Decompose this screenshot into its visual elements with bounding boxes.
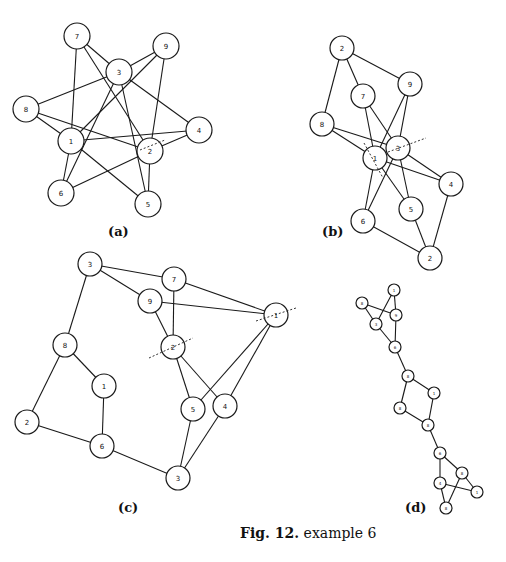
graph-node: 7 xyxy=(162,267,186,291)
caption-prefix: Fig. 12. xyxy=(240,525,299,541)
svg-text:8: 8 xyxy=(63,342,67,350)
graph-node: 5 xyxy=(135,191,161,217)
svg-text:9: 9 xyxy=(395,313,398,318)
graph-node: 1 xyxy=(388,284,400,296)
graph-node: 6 xyxy=(48,180,74,206)
graph-node: 4 xyxy=(439,172,463,196)
graph-node: 3 xyxy=(370,318,382,330)
graph-panel-a: 793841265 xyxy=(13,23,212,217)
svg-text:3: 3 xyxy=(88,261,92,269)
graph-edge xyxy=(77,36,150,151)
graph-node: 3 xyxy=(106,59,132,85)
graph-node: 1 xyxy=(92,374,116,398)
svg-text:4: 4 xyxy=(439,481,442,486)
svg-text:1: 1 xyxy=(393,288,396,293)
graph-node: 8 xyxy=(456,467,468,479)
svg-text:2: 2 xyxy=(148,148,152,156)
svg-text:9: 9 xyxy=(408,81,412,89)
graph-node: 8 xyxy=(394,402,406,414)
graph-node: 6 xyxy=(434,447,446,459)
caption-text: example 6 xyxy=(299,525,376,541)
svg-text:9: 9 xyxy=(148,298,152,306)
graph-edge xyxy=(65,264,90,345)
graph-node: 3 xyxy=(78,252,102,276)
svg-text:8: 8 xyxy=(24,106,28,114)
svg-text:7: 7 xyxy=(75,33,79,41)
graph-panel-c: 379182154263 xyxy=(15,252,296,490)
svg-text:4: 4 xyxy=(223,403,228,411)
graph-node: 2 xyxy=(330,36,354,60)
svg-text:6: 6 xyxy=(439,451,442,456)
svg-text:3: 3 xyxy=(117,69,121,77)
graph-node: 8 xyxy=(422,419,434,431)
graph-edge xyxy=(193,315,276,409)
graph-node: 7 xyxy=(64,23,90,49)
panel-label-b: (b) xyxy=(322,224,343,239)
graph-node: 8 xyxy=(440,502,452,514)
graph-edge xyxy=(61,151,150,193)
svg-text:6: 6 xyxy=(59,190,64,198)
svg-text:7: 7 xyxy=(361,93,365,101)
graph-node: 8 xyxy=(13,96,39,122)
svg-text:9: 9 xyxy=(164,43,168,51)
graph-node: 2 xyxy=(418,246,442,270)
svg-text:8: 8 xyxy=(399,406,402,411)
svg-text:4: 4 xyxy=(449,181,454,189)
graph-node: 6 xyxy=(351,209,375,233)
graph-edge xyxy=(150,46,166,151)
svg-text:5: 5 xyxy=(146,201,150,209)
graph-node: 9 xyxy=(153,33,179,59)
graph-node: 1 xyxy=(363,146,387,170)
svg-text:2: 2 xyxy=(340,45,344,53)
graph-edge xyxy=(225,315,276,406)
graph-node: 9 xyxy=(138,289,162,313)
graph-node: 6 xyxy=(389,341,401,353)
svg-text:8: 8 xyxy=(445,506,448,511)
svg-text:3: 3 xyxy=(176,475,180,483)
svg-text:7: 7 xyxy=(172,276,176,284)
graph-node: 8 xyxy=(402,370,414,382)
graph-node: 1 xyxy=(428,387,440,399)
svg-text:2: 2 xyxy=(25,419,29,427)
svg-text:4: 4 xyxy=(197,127,202,135)
svg-text:6: 6 xyxy=(100,443,105,451)
svg-text:8: 8 xyxy=(427,423,430,428)
svg-text:6: 6 xyxy=(361,218,366,226)
graph-node: 9 xyxy=(390,309,402,321)
svg-text:8: 8 xyxy=(407,374,410,379)
graph-node: 2 xyxy=(15,410,39,434)
svg-text:1: 1 xyxy=(274,312,278,320)
svg-text:6: 6 xyxy=(394,345,397,350)
graph-node: 2 xyxy=(161,335,185,359)
figure-caption: Fig. 12. example 6 xyxy=(240,525,377,541)
graph-node: 8 xyxy=(356,297,368,309)
svg-text:1: 1 xyxy=(433,391,436,396)
graph-edge xyxy=(27,345,65,422)
graph-node: 5 xyxy=(181,397,205,421)
svg-text:8: 8 xyxy=(361,301,364,306)
graph-panel-d: 18936818868418 xyxy=(356,284,483,514)
graph-node: 4 xyxy=(434,477,446,489)
figure-canvas: 793841265 2978314562 379182154263 189368… xyxy=(0,0,506,562)
graph-node: 6 xyxy=(90,434,114,458)
graph-node: 1 xyxy=(58,128,84,154)
svg-text:8: 8 xyxy=(320,121,324,129)
graph-edge xyxy=(26,72,119,109)
svg-text:5: 5 xyxy=(191,406,195,414)
graph-node: 4 xyxy=(186,117,212,143)
graph-node: 3 xyxy=(166,466,190,490)
panel-label-d: (d) xyxy=(405,500,426,515)
svg-text:3: 3 xyxy=(375,322,378,327)
graph-node: 7 xyxy=(351,84,375,108)
graph-node: 8 xyxy=(310,112,334,136)
graph-node: 5 xyxy=(399,197,423,221)
graph-node: 1 xyxy=(471,486,483,498)
svg-text:5: 5 xyxy=(409,206,413,214)
graph-node: 8 xyxy=(53,333,77,357)
svg-text:8: 8 xyxy=(461,471,464,476)
graph-node: 3 xyxy=(386,136,410,160)
svg-text:1: 1 xyxy=(476,490,479,495)
panel-label-c: (c) xyxy=(118,500,138,515)
graph-node: 9 xyxy=(398,72,422,96)
graph-node: 4 xyxy=(213,394,237,418)
